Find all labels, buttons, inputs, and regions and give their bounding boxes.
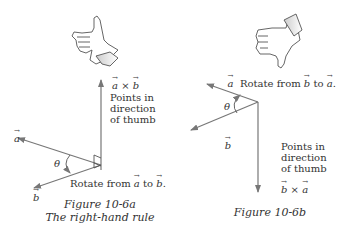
thumb-note-b: Points in direction of thumb (281, 141, 327, 174)
theta-label: θ (54, 158, 60, 169)
cross-operator: × (121, 80, 129, 91)
caption-figure-b: Figure 10-6b (220, 206, 320, 219)
rotate-label-b: Rotate from b to a. (240, 78, 336, 89)
vector-b-label-b: b (225, 140, 231, 151)
note-line: direction (110, 103, 156, 114)
thumbs-down-hand-icon (256, 14, 302, 68)
caption-figure-a: Figure 10-6a The right-hand rule (40, 198, 160, 224)
vector-symbol: a (134, 178, 140, 189)
vector-symbol: a (327, 78, 333, 89)
caption-subtitle: The right-hand rule (40, 211, 160, 224)
caption-title: Figure 10-6b (220, 206, 320, 219)
vector-symbol: a (302, 184, 308, 195)
vector-symbol: b (156, 178, 162, 189)
vector-a-label-b: a (228, 78, 234, 89)
vector-symbol: b (304, 78, 310, 89)
note-line: direction (281, 152, 327, 163)
vector-symbol: b (281, 184, 287, 195)
note-line: of thumb (281, 163, 327, 174)
vector-symbol: b (133, 80, 139, 91)
note-line: Points in (281, 141, 327, 152)
note-line: Points in (110, 92, 156, 103)
rotate-to-word: to (313, 78, 323, 89)
cross-product-label-a: a × b (112, 80, 139, 91)
vector-symbol: a (112, 80, 118, 91)
cross-operator: × (291, 184, 299, 195)
note-line: of thumb (110, 114, 156, 125)
caption-title: Figure 10-6a (40, 198, 160, 211)
cross-product-label-b: b × a (281, 184, 308, 195)
rotate-text: Rotate from (240, 78, 301, 89)
theta-label-b: θ (224, 101, 230, 112)
rotate-to-word: to (143, 178, 153, 189)
rotate-label-a: Rotate from a to b. (70, 178, 166, 189)
vector-a-label: a (14, 133, 20, 144)
thumbs-up-hand-icon (72, 16, 118, 66)
rotate-text: Rotate from (70, 178, 131, 189)
thumb-note-a: Points in direction of thumb (110, 92, 156, 125)
vector-b-label: b (33, 192, 39, 203)
